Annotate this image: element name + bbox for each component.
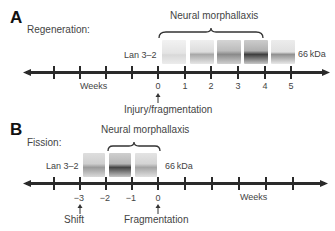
axis-tick [292, 177, 294, 190]
tick-label: 2 [201, 81, 221, 91]
panel-b-shift-label: Shift [64, 214, 84, 225]
tick-label: −1 [121, 193, 141, 203]
western-blot-lane [83, 153, 105, 177]
tick-label: 1 [175, 81, 195, 91]
panel-b-kda-label: 66 kDa [165, 161, 193, 171]
western-blot-lane [271, 40, 295, 64]
panel-b-timeline-axis-right [145, 182, 325, 185]
panel-a-letter: A [10, 8, 22, 28]
axis-tick [237, 66, 239, 79]
arrow-right-icon [322, 68, 330, 77]
tick-label: −2 [95, 193, 115, 203]
arrow-left-icon [23, 179, 31, 188]
panel-a-event-label: Injury/fragmentation [124, 104, 212, 115]
panel-a-timeline-axis [26, 71, 326, 74]
arrow-left-icon [23, 68, 31, 77]
arrow-right-icon [320, 179, 328, 188]
axis-tick [184, 66, 186, 79]
panel-a-axis-label: Weeks [80, 81, 107, 91]
axis-tick [210, 66, 212, 79]
western-blot-lane [190, 40, 214, 64]
panel-a-brace [158, 28, 264, 40]
tick-label: 3 [228, 81, 248, 91]
axis-tick [105, 66, 107, 79]
western-blot-lane [217, 40, 241, 64]
tick-label: 0 [148, 81, 168, 91]
axis-tick [157, 177, 159, 190]
axis-tick [238, 177, 240, 190]
panel-a-brace-label: Neural morphallaxis [170, 10, 258, 21]
tick-label: 5 [281, 81, 301, 91]
axis-tick [131, 177, 133, 190]
axis-tick [79, 66, 81, 79]
panel-a-blot-label: Lan 3–2 [124, 50, 157, 60]
panel-b-title: Fission: [27, 137, 61, 148]
western-blot-lane [135, 153, 157, 177]
panel-b-fragmentation-label: Fragmentation [124, 214, 188, 225]
arrow-up-icon [77, 204, 83, 214]
panel-a-title: Regeneration: [27, 24, 90, 35]
arrow-up-icon [155, 204, 161, 214]
panel-b-brace-label: Neural morphallaxis [101, 124, 189, 135]
tick-label: 4 [255, 81, 275, 91]
axis-tick [79, 177, 81, 190]
arrow-up-icon [155, 93, 161, 103]
axis-tick [290, 66, 292, 79]
axis-tick [184, 177, 186, 190]
axis-tick [211, 177, 213, 190]
axis-tick [157, 66, 159, 79]
panel-b-timeline-axis [26, 182, 146, 185]
axis-tick [53, 177, 55, 190]
tick-label: −3 [69, 193, 89, 203]
western-blot-lane [109, 153, 131, 177]
axis-tick [105, 177, 107, 190]
western-blot-lane [244, 40, 268, 64]
axis-tick [131, 66, 133, 79]
tick-label: 0 [148, 193, 168, 203]
panel-b-blot-label: Lan 3–2 [46, 161, 79, 171]
panel-b-letter: B [10, 120, 22, 140]
axis-tick [265, 177, 267, 190]
western-blot-lane [162, 40, 186, 64]
panel-a-kda-label: 66 kDa [298, 49, 326, 59]
panel-b-brace [107, 142, 161, 152]
axis-tick [53, 66, 55, 79]
axis-tick [264, 66, 266, 79]
panel-b-axis-label: Weeks [240, 192, 267, 202]
